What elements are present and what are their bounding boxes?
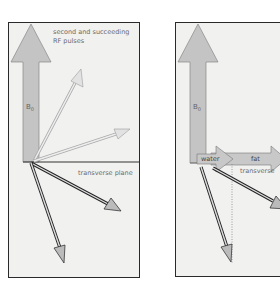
b0-label: B0 [193,103,201,114]
diagram-panel-left: second and succeeding RF pulses B0 trans… [8,22,140,278]
fat-label: fat [251,155,260,164]
b0-label: B0 [26,103,34,114]
diagram-panel-right: B0 water fat transverse [175,22,280,277]
dephased-vector-2 [201,167,232,262]
vector-diagram-right [176,23,280,277]
water-label: water [201,155,220,164]
transverse-plane-label: transverse plane [78,169,133,178]
caption-line-2: RF pulses [53,37,84,46]
b0-arrow [178,24,218,163]
transverse-label: transverse [240,167,275,176]
caption-line-1: second and succeeding [53,28,129,37]
vector-diagram-left [9,23,140,278]
